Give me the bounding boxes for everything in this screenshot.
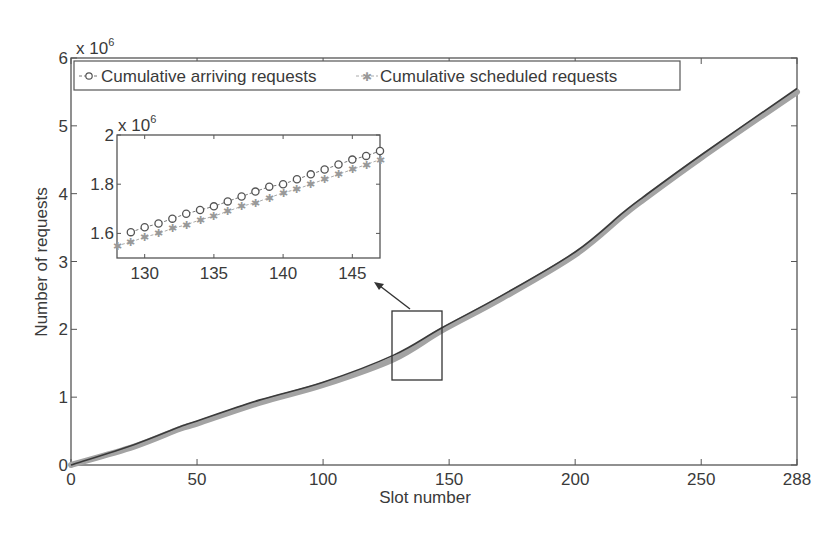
circle-marker-icon: [169, 215, 176, 222]
main-ticks: 0501001502002502880123456: [59, 49, 812, 489]
x-tick-label: 150: [435, 470, 463, 489]
star-marker-icon: ✱: [196, 214, 205, 226]
legend-label-scheduled: Cumulative scheduled requests: [380, 67, 617, 86]
inset-y-tick-label: 1.8: [90, 175, 114, 194]
y-tick-label: 2: [59, 320, 68, 339]
inset-y-tick-label: 2: [105, 126, 114, 145]
star-marker-icon: ✱: [154, 227, 163, 239]
circle-marker-icon: [238, 193, 245, 200]
star-marker-icon: ✱: [306, 178, 315, 190]
circle-marker-icon: [252, 188, 259, 195]
inset-y-tick-label: 1.6: [90, 224, 114, 243]
circle-marker-icon: [376, 147, 383, 154]
circle-marker-icon: [266, 183, 273, 190]
star-marker-icon: ✱: [223, 205, 232, 217]
x-axis-title: Slot number: [379, 488, 471, 507]
circle-marker-icon: [363, 152, 370, 159]
star-marker-icon: ✱: [126, 236, 135, 248]
inset-x-tick-label: 140: [269, 264, 297, 283]
star-marker-icon: ✱: [376, 154, 385, 166]
y-tick-label: 4: [59, 185, 68, 204]
main-plot-frame: [71, 58, 797, 465]
circle-marker-icon: [224, 198, 231, 205]
circle-marker-icon: [349, 156, 356, 163]
inset-frame: [117, 135, 380, 258]
star-marker-icon: ✱: [334, 168, 343, 180]
inset-axes: x 106 1301351401451.61.82 ✱✱✱✱✱✱✱✱✱✱✱✱✱✱…: [90, 113, 384, 283]
star-marker-icon: ✱: [237, 200, 246, 212]
circle-marker-icon: [196, 206, 203, 213]
y-tick-label: 0: [59, 456, 68, 475]
y-tick-label: 3: [59, 253, 68, 272]
circle-marker-icon: [280, 181, 287, 188]
circle-marker-icon: [183, 210, 190, 217]
arrow-icon: [374, 282, 410, 309]
x-tick-label: 288: [783, 470, 811, 489]
x-tick-label: 250: [687, 470, 715, 489]
star-marker-icon: ✱: [251, 197, 260, 209]
star-marker-icon: ✱: [320, 173, 329, 185]
inset-x-tick-label: 145: [338, 264, 366, 283]
chart-figure: 0501001502002502880123456 x 106 Slot num…: [0, 0, 840, 536]
x-tick-label: 100: [309, 470, 337, 489]
legend-label-arriving: Cumulative arriving requests: [101, 67, 316, 86]
y-tick-label: 1: [59, 388, 68, 407]
star-marker-icon: ✱: [362, 159, 371, 171]
star-marker-icon: ✱: [168, 222, 177, 234]
legend: Cumulative arriving requests ✱ Cumulativ…: [74, 61, 680, 90]
star-marker-icon: ✱: [348, 163, 357, 175]
circle-marker-icon: [210, 203, 217, 210]
circle-marker-icon: [155, 220, 162, 227]
circle-marker-icon: [141, 224, 148, 231]
star-marker-icon: ✱: [182, 219, 191, 231]
inset-exponent-label: x 106: [118, 113, 156, 135]
x-tick-label: 50: [188, 470, 207, 489]
y-tick-label: 6: [59, 49, 68, 68]
circle-marker-icon: [127, 229, 134, 236]
inset-x-tick-label: 130: [130, 264, 158, 283]
circle-marker-icon: [307, 171, 314, 178]
x-tick-label: 200: [561, 470, 589, 489]
inset-x-tick-label: 135: [200, 264, 228, 283]
y-exponent-label: x 106: [76, 36, 114, 58]
y-tick-label: 5: [59, 117, 68, 136]
legend-star-marker-icon: ✱: [362, 70, 372, 84]
circle-marker-icon: [321, 166, 328, 173]
star-marker-icon: ✱: [265, 192, 274, 204]
star-marker-icon: ✱: [209, 210, 218, 222]
star-marker-icon: ✱: [292, 183, 301, 195]
circle-marker-icon: [293, 176, 300, 183]
circle-marker-icon: [335, 161, 342, 168]
star-marker-icon: ✱: [113, 240, 122, 252]
legend-circle-marker-icon: [86, 73, 92, 79]
main-axes: 0501001502002502880123456: [59, 49, 812, 489]
star-marker-icon: ✱: [279, 187, 288, 199]
y-axis-title: Number of requests: [32, 187, 51, 336]
star-marker-icon: ✱: [140, 231, 149, 243]
